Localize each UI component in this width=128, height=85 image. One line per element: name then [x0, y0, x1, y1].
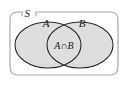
label-set-b: B: [79, 17, 86, 29]
venn-diagram-figure: S A B A∩B: [0, 0, 128, 85]
label-intersection-b: B: [68, 40, 74, 51]
label-intersection: A∩B: [53, 40, 73, 51]
label-set-a: A: [42, 17, 50, 29]
intersection-operator-icon: ∩: [60, 40, 67, 51]
label-universal-set: S: [25, 7, 31, 19]
venn-diagram-canvas: S A B A∩B: [0, 0, 128, 85]
